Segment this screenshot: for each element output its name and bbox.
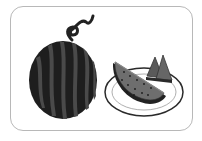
watermelon-illustration: [0, 0, 202, 141]
whole-watermelon: [29, 16, 97, 119]
stem-icon: [68, 16, 93, 40]
watermelon-slices-plate: [105, 55, 183, 116]
